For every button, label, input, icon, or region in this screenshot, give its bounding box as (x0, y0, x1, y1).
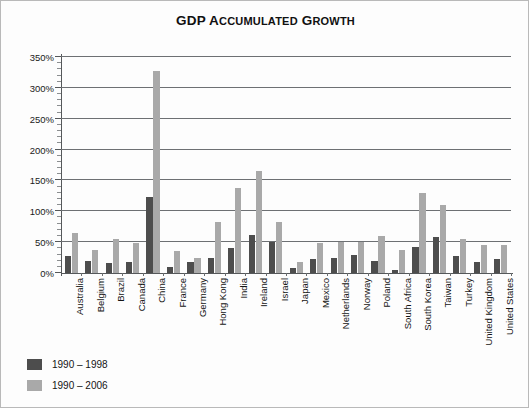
x-axis-tick (450, 273, 451, 276)
bar (378, 236, 384, 273)
y-axis-tick-major (55, 118, 61, 119)
x-axis-tick (81, 273, 82, 276)
bar (249, 235, 255, 273)
bar (310, 259, 316, 273)
y-axis-label: 50% (8, 237, 54, 248)
y-axis-tick-minor (57, 260, 61, 261)
bar (187, 262, 193, 273)
y-axis-tick-minor (57, 266, 61, 267)
y-axis-tick-major (55, 210, 61, 211)
y-axis-tick-minor (57, 254, 61, 255)
y-axis-tick-minor (57, 223, 61, 224)
y-axis-tick-minor (57, 68, 61, 69)
legend-label: 1990 – 1998 (52, 359, 108, 370)
y-axis-tick-minor (57, 142, 61, 143)
bar (153, 71, 159, 273)
legend-item: 1990 – 1998 (27, 356, 108, 373)
bar (72, 233, 78, 273)
bar (371, 261, 377, 273)
gridline (61, 179, 511, 180)
x-axis-tick (122, 273, 123, 276)
x-axis-tick (163, 273, 164, 276)
bar (146, 197, 152, 273)
bar (392, 270, 398, 273)
x-axis-tick (143, 273, 144, 276)
x-axis-tick (409, 273, 410, 276)
bar (419, 193, 425, 273)
x-axis-category-label: Hong Kong (218, 278, 228, 326)
x-axis-tick (470, 273, 471, 276)
bar (412, 247, 418, 273)
legend-label: 1990 – 2006 (52, 380, 108, 391)
bar (92, 250, 98, 273)
bar (474, 262, 480, 273)
bar (276, 222, 282, 273)
plot-area (61, 57, 511, 273)
x-axis-category-label: India (239, 278, 249, 299)
chart-legend: 1990 – 19981990 – 2006 (27, 356, 108, 398)
y-axis-tick-minor (57, 173, 61, 174)
y-axis-tick-minor (57, 124, 61, 125)
y-axis-tick-minor (57, 155, 61, 156)
x-axis-tick (491, 273, 492, 276)
x-axis-tick (327, 273, 328, 276)
bar (133, 243, 139, 273)
gridline (61, 56, 511, 57)
x-axis-tick (511, 273, 512, 276)
gridline (61, 87, 511, 88)
x-axis-category-label: United States (505, 278, 515, 335)
x-axis-category-label: Ireland (259, 278, 269, 307)
y-axis-tick-minor (57, 216, 61, 217)
gridline (61, 118, 511, 119)
x-axis-tick (286, 273, 287, 276)
x-axis-category-label: Brazil (116, 278, 126, 302)
x-axis-tick (184, 273, 185, 276)
chart-figure: GDP ACCUMULATED GROWTH 0%50%100%150%200%… (0, 0, 529, 408)
bar (351, 255, 357, 274)
bar (126, 262, 132, 273)
x-axis-category-label: South Africa (403, 278, 413, 329)
y-axis-tick-minor (57, 136, 61, 137)
x-axis-category-label: Germany (198, 278, 208, 317)
bar (235, 188, 241, 273)
x-axis-line (61, 273, 513, 274)
y-axis-label: 200% (8, 144, 54, 155)
x-axis-category-label: France (178, 278, 188, 308)
bar (228, 248, 234, 273)
y-axis-label: 250% (8, 113, 54, 124)
y-axis-label: 350% (8, 52, 54, 63)
x-axis-tick (306, 273, 307, 276)
bar (174, 251, 180, 273)
bar (481, 245, 487, 273)
x-axis-category-label: China (157, 278, 167, 303)
bar (399, 250, 405, 273)
bar (167, 267, 173, 273)
x-axis-category-label: Belgium (96, 278, 106, 312)
y-axis-tick-minor (57, 62, 61, 63)
y-axis-tick-minor (57, 99, 61, 100)
bar (113, 239, 119, 273)
x-axis-category-label: Canada (137, 278, 147, 311)
bar (256, 171, 262, 273)
y-axis-tick-major (55, 272, 61, 273)
x-axis-category-label: Mexico (321, 278, 331, 308)
y-axis-label: 150% (8, 175, 54, 186)
bar (331, 258, 337, 273)
bar (215, 222, 221, 273)
y-axis-tick-minor (57, 167, 61, 168)
x-axis-category-label: Netherlands (341, 278, 351, 329)
bar (494, 259, 500, 273)
bar (85, 261, 91, 273)
x-axis-tick (429, 273, 430, 276)
y-axis-tick-minor (57, 247, 61, 248)
x-axis-category-label: Japan (300, 278, 310, 304)
y-axis-tick-minor (57, 105, 61, 106)
y-axis-tick-minor (57, 75, 61, 76)
y-axis-tick-minor (57, 130, 61, 131)
y-axis-tick-minor (57, 235, 61, 236)
y-axis-tick-minor (57, 93, 61, 94)
x-axis-tick (245, 273, 246, 276)
y-axis-tick-minor (57, 204, 61, 205)
bar (358, 242, 364, 273)
chart-title: GDP ACCUMULATED GROWTH (1, 13, 529, 28)
